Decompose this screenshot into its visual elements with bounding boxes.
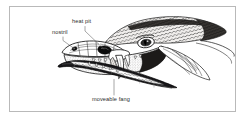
label-nostril: nostril bbox=[52, 29, 68, 36]
label-moveable-fang: moveable fang bbox=[92, 96, 130, 103]
figure-root: heat pit nostril moveable fang bbox=[0, 0, 247, 121]
label-heat-pit: heat pit bbox=[72, 18, 91, 25]
